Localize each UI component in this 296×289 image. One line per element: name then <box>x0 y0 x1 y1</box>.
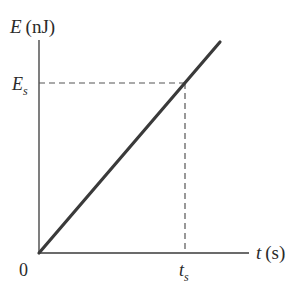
es-tick-label: Es <box>11 74 28 98</box>
ts-tick-label: ts <box>179 260 189 284</box>
energy-time-graph: E(nJ) Es 0 ts t(s) <box>0 0 296 289</box>
x-axis-label: t(s) <box>256 242 285 264</box>
energy-line <box>39 42 220 253</box>
origin-label: 0 <box>19 260 28 280</box>
y-axis-label: E(nJ) <box>9 16 55 38</box>
